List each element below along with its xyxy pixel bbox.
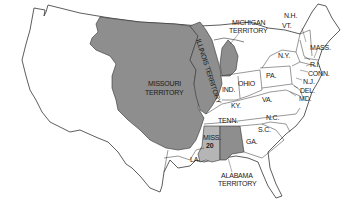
michigan-territory-label-1: MICHIGAN [232, 19, 266, 26]
alabama-territory-label-1: ALABAMA [221, 172, 253, 179]
vermont-label: VT. [282, 22, 292, 29]
connecticut-label: CONN. [308, 70, 330, 77]
mississippi-state-number: 20 [206, 142, 214, 149]
rhode-island-label: R.I. [310, 61, 320, 68]
maryland-label: MD. [299, 95, 311, 102]
new-jersey-label: N.J. [303, 78, 315, 85]
new-hampshire-label: N.H. [284, 12, 297, 19]
ohio-label: OHIO [238, 80, 256, 87]
south-carolina-label: S.C. [258, 126, 271, 133]
virginia-label: VA. [262, 96, 272, 103]
massachusetts-label: MASS. [310, 44, 331, 51]
missouri-territory-label-1: MISSOURI [148, 80, 181, 87]
us-map-1817: MISSOURI TERRITORY ILLINOIS TERRITORY MI… [0, 0, 347, 208]
alabama-territory-label-2: TERRITORY [218, 180, 257, 187]
indiana-label: IND. [222, 86, 235, 93]
delaware-label: DEL. [300, 87, 315, 94]
mississippi-label: MISS. [203, 134, 221, 141]
new-york-label: N.Y. [278, 52, 290, 59]
tennessee-label: TENN. [218, 117, 238, 124]
north-carolina-label: N.C. [266, 114, 279, 121]
louisiana-label: LA. [190, 156, 200, 163]
georgia-label: GA. [246, 138, 258, 145]
kentucky-label: KY. [231, 102, 241, 109]
missouri-territory-label-2: TERRITORY [145, 89, 184, 96]
pennsylvania-label: PA. [266, 72, 276, 79]
michigan-territory-label-2: TERRITORY [229, 27, 268, 34]
